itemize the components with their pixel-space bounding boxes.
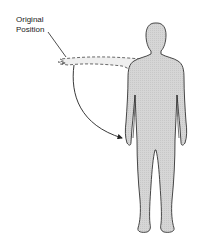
- diagram-canvas: [0, 0, 204, 248]
- label-leader-line: [48, 32, 66, 57]
- human-figure: [125, 23, 186, 232]
- adduction-arrow: [73, 65, 122, 138]
